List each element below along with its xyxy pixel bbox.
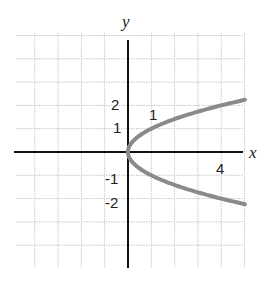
- y-tick-2: 2: [111, 96, 119, 113]
- x-tick-4: 4: [216, 160, 224, 177]
- y-axis-label: y: [120, 12, 130, 31]
- y-tick-neg1: -1: [105, 170, 118, 187]
- y-tick-neg2: -2: [105, 194, 118, 211]
- y-tick-1: 1: [113, 119, 121, 136]
- grid-lines: [16, 33, 245, 268]
- coordinate-plane: x y 4 2 1 -1 -2 1: [0, 0, 274, 285]
- curve-annotation-1: 1: [149, 106, 157, 123]
- x-axis-label: x: [248, 143, 257, 162]
